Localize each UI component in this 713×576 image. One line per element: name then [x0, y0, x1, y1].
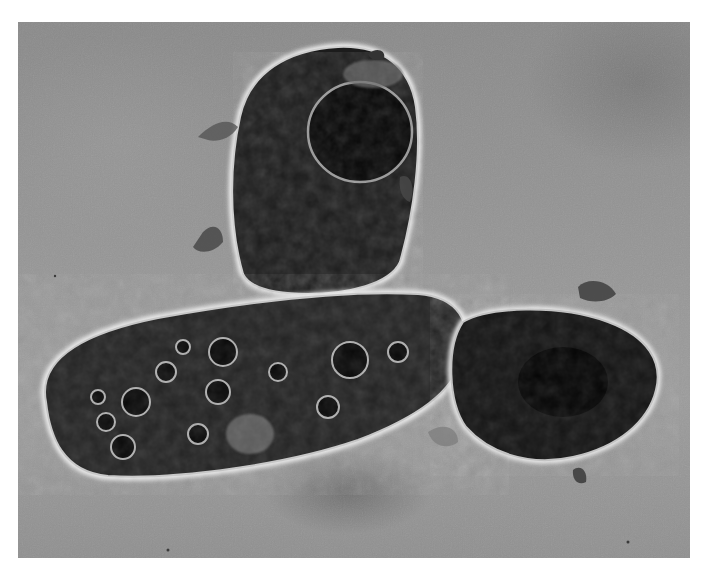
micrograph-drawing [18, 22, 690, 558]
micrograph-photo [18, 22, 690, 558]
